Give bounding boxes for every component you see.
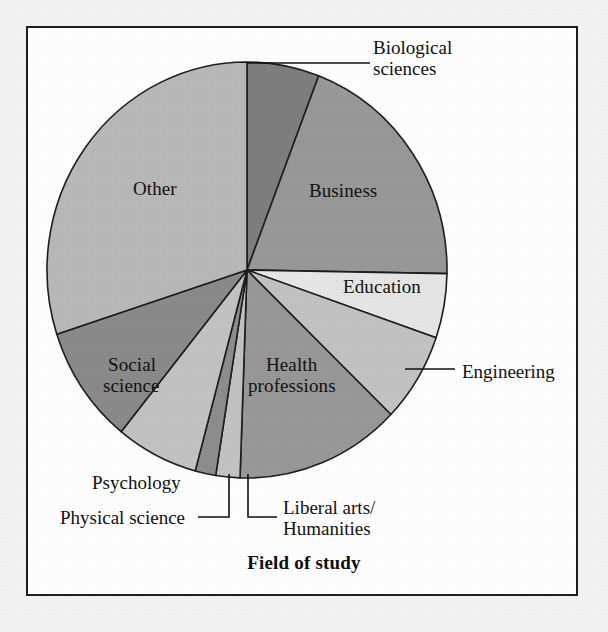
leader-physical-science [198, 474, 229, 517]
pie-label-social-science-l2: science [103, 376, 160, 396]
leader-liberal-arts [248, 474, 277, 517]
pie-label-psychology: Psychology [92, 473, 181, 494]
pie-label-biological-sciences-l2: sciences [373, 59, 436, 80]
pie-label-health-l1: Health [266, 355, 317, 375]
chart-title: Field of study [0, 552, 608, 574]
pie-label-physical-science: Physical science [60, 508, 185, 529]
pie-label-liberal-arts-l1: Liberal arts/ [283, 498, 375, 519]
pie-label-other: Other [133, 179, 177, 199]
figure-page: BusinessEducationOtherSocialscienceHealt… [0, 0, 608, 632]
pie-label-liberal-arts-l2: Humanities [283, 519, 371, 540]
pie-label-social-science-l1: Social [108, 355, 156, 375]
pie-label-education: Education [343, 277, 421, 297]
pie-label-health-l2: professions [248, 376, 336, 396]
pie-label-biological-sciences-l1: Biological [373, 38, 452, 59]
pie-label-business: Business [309, 181, 377, 201]
pie-slices [47, 62, 447, 478]
pie-label-engineering: Engineering [462, 362, 555, 383]
pie-chart: BusinessEducationOtherSocialscienceHealt… [0, 0, 608, 632]
